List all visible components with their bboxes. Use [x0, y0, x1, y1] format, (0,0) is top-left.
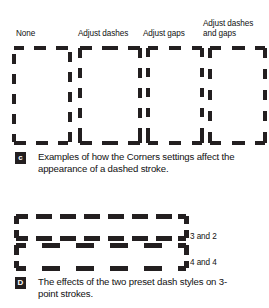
column-label-none: None [16, 29, 35, 39]
preset-rect-4-and-4 [16, 245, 186, 268]
dashed-stroke-figure: None Adjust dashes Adjust gaps Adjust da… [0, 0, 269, 308]
column-label-adjust-gaps: Adjust gaps [143, 29, 185, 39]
column-label-adjust-dashes: Adjust dashes [78, 29, 128, 39]
caption-c: c Examples of how the Corners settings a… [15, 151, 265, 175]
caption-d: D The effects of the two preset dash sty… [15, 276, 265, 300]
sample-rect-adjust-dashes [80, 48, 140, 143]
preset-label-4-and-4: 4 and 4 [190, 258, 217, 268]
sample-rect-none [14, 48, 70, 143]
figure-badge-c: c [15, 152, 26, 164]
caption-c-text: Examples of how the Corners settings aff… [38, 151, 246, 175]
figure-badge-d: D [15, 277, 26, 289]
preset-label-3-and-2: 3 and 2 [190, 232, 217, 242]
column-label-adjust-dashes-and-gaps: Adjust dashes and gaps [203, 19, 267, 38]
preset-rect-3-and-2 [16, 216, 186, 238]
caption-d-text: The effects of the two preset dash style… [38, 276, 246, 300]
sample-rect-adjust-gaps [148, 48, 202, 143]
sample-rect-adjust-dashes-and-gaps [210, 48, 265, 143]
